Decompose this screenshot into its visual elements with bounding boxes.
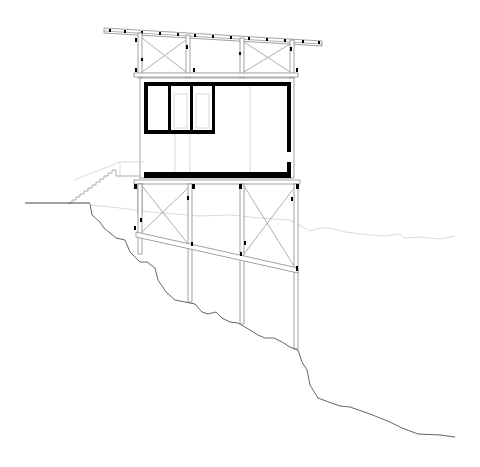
cabin-left-wall [144, 82, 148, 134]
roof [104, 28, 322, 46]
stilt-frame [134, 180, 300, 349]
section-drawing [0, 0, 480, 467]
cabin-roof-slab [144, 82, 291, 86]
floor-slab [144, 172, 291, 178]
cabin [140, 78, 294, 178]
cabin-right-wall [287, 82, 291, 152]
stair [68, 162, 144, 203]
